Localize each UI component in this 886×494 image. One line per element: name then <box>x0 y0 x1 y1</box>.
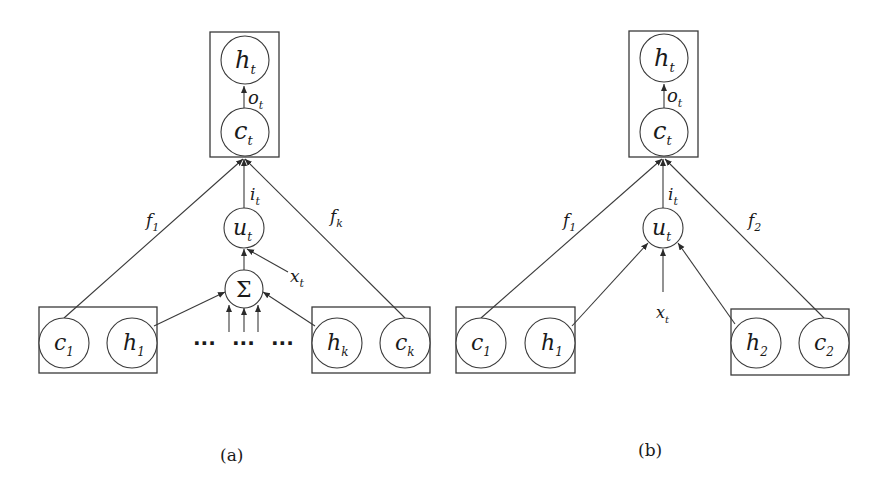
x-t-label-a: xt <box>290 266 305 290</box>
ellipsis-a: ··· <box>271 331 294 355</box>
tree-lstm-diagrams: ht ct ot it f1 fk ut Σ xt c1 h1 ··· ··· … <box>0 0 886 494</box>
f-k-label-a: fk <box>328 206 343 230</box>
o-t-label-b: ot <box>667 85 683 110</box>
f-1-label-b: f1 <box>561 210 576 234</box>
f-2-label-b: f2 <box>746 210 761 234</box>
forget-k-line-a <box>245 159 405 318</box>
h1-to-sum-arrow-a <box>154 292 225 326</box>
x-to-u-arrow-a <box>247 249 288 272</box>
forget-1-line-b <box>481 159 662 318</box>
forget-1-line-a <box>64 159 243 318</box>
h2-to-u-arrow-b <box>678 243 735 324</box>
ellipsis-a: ··· <box>232 331 255 355</box>
h1-to-u-arrow-b <box>572 243 648 326</box>
caption-b: (b) <box>638 440 662 460</box>
x-t-label-b: xt <box>656 303 670 325</box>
f-1-label-a: f1 <box>144 210 159 234</box>
ellipsis-a: ··· <box>193 331 216 355</box>
diagram-a: ht ct ot it f1 fk ut Σ xt c1 h1 ··· ··· … <box>39 32 430 465</box>
forget-2-line-b <box>665 159 824 318</box>
i-t-label-b: it <box>668 184 678 208</box>
sigma-label-a: Σ <box>236 277 252 302</box>
diagram-b: ht ct ot it f1 f2 ut xt c1 h1 h2 c2 (b) <box>456 31 849 460</box>
i-t-label-a: it <box>250 184 260 208</box>
hk-to-sum-arrow-a <box>263 292 315 326</box>
caption-a: (a) <box>220 445 243 465</box>
